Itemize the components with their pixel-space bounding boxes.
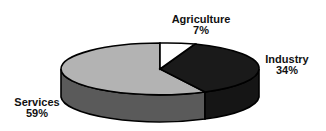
label-services: Services 59%: [14, 97, 59, 119]
pie-top-face: [61, 43, 259, 95]
label-agriculture: Agriculture 7%: [172, 14, 231, 36]
label-industry: Industry 34%: [265, 54, 308, 76]
label-services-value: 59%: [14, 108, 59, 119]
label-industry-value: 34%: [265, 65, 308, 76]
label-agriculture-value: 7%: [172, 25, 231, 36]
